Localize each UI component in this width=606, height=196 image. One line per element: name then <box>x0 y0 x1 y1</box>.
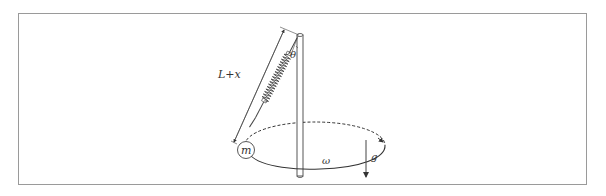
rotation-arrow-icon <box>378 138 383 142</box>
orbit-ellipse-front <box>250 145 385 169</box>
length-dimension-line <box>231 27 299 144</box>
angular-velocity-label: ω <box>322 155 330 166</box>
diagram-canvas: L+x θ m ω g <box>0 0 606 196</box>
gravity-label: g <box>371 151 377 162</box>
length-label: L+x <box>217 68 242 81</box>
vertical-pole <box>297 34 303 178</box>
orbit-ellipse-back <box>245 122 385 145</box>
angle-label: θ <box>290 49 296 60</box>
mass-label: m <box>241 144 251 157</box>
